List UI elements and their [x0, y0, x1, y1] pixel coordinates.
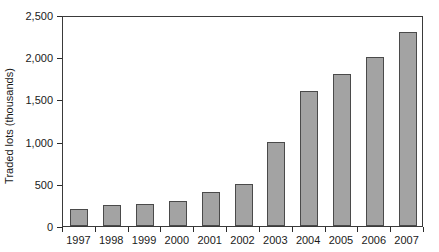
- bar-2002: [235, 184, 253, 226]
- x-axis-ticks: 1997199819992000200120022003200420052006…: [62, 227, 423, 252]
- bar-1997: [70, 209, 88, 226]
- x-axis-tick-mark: [62, 227, 63, 232]
- bar-2003: [267, 142, 285, 226]
- bar-2007: [399, 32, 417, 226]
- x-axis-tick-label: 1998: [99, 234, 123, 246]
- x-axis-tick-label: 2005: [329, 234, 353, 246]
- bar-1998: [103, 205, 121, 226]
- y-axis-tick-label: 2,000: [25, 52, 53, 64]
- x-axis-tick-mark: [128, 227, 129, 232]
- y-axis-tick-label: 1,500: [25, 94, 53, 106]
- bar-2004: [300, 91, 318, 226]
- x-axis-tick-label: 2002: [230, 234, 254, 246]
- x-axis-tick-label: 2000: [165, 234, 189, 246]
- x-axis-tick-label: 1999: [132, 234, 156, 246]
- bar-2006: [366, 57, 384, 226]
- x-axis-tick-mark: [390, 227, 391, 232]
- x-axis-tick-mark: [423, 227, 424, 232]
- plot-area: [62, 16, 423, 227]
- y-axis-tick-label: 2,500: [25, 10, 53, 22]
- x-axis-tick-mark: [160, 227, 161, 232]
- x-axis-tick-mark: [95, 227, 96, 232]
- x-axis-tick-label: 2006: [362, 234, 386, 246]
- x-axis-tick-label: 2001: [197, 234, 221, 246]
- x-axis-tick-label: 1997: [66, 234, 90, 246]
- x-axis-tick-label: 2003: [263, 234, 287, 246]
- x-axis-tick-mark: [292, 227, 293, 232]
- x-axis-tick-mark: [357, 227, 358, 232]
- y-axis-tick-label: 1,000: [25, 137, 53, 149]
- y-axis-ticks: 05001,0001,5002,0002,500: [0, 0, 62, 252]
- x-axis-tick-mark: [193, 227, 194, 232]
- bar-2001: [202, 192, 220, 226]
- x-axis-tick-mark: [226, 227, 227, 232]
- bar-chart: Traded lots (thousands) 05001,0001,5002,…: [0, 0, 439, 252]
- x-axis-tick-mark: [259, 227, 260, 232]
- bar-2005: [333, 74, 351, 226]
- bar-2000: [169, 201, 187, 226]
- x-axis-tick-label: 2004: [296, 234, 320, 246]
- x-axis-tick-label: 2007: [394, 234, 418, 246]
- x-axis-tick-mark: [325, 227, 326, 232]
- bar-1999: [136, 204, 154, 226]
- bars-container: [63, 17, 422, 226]
- y-axis-tick-label: 500: [35, 179, 53, 191]
- y-axis-tick-label: 0: [47, 221, 53, 233]
